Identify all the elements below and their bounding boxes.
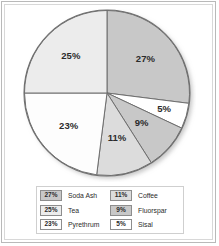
legend-column-left: 27%Soda Ash25%Tea23%Pyrethrum [40, 189, 110, 231]
pie-slice-label: 11% [108, 132, 127, 143]
pie-slices [25, 11, 190, 176]
legend-column-right: 11%Coffee9%Fluorspar5%Sisal [110, 189, 180, 231]
legend-item: 23%Pyrethrum [40, 218, 110, 231]
legend-swatch: 5% [110, 219, 132, 230]
legend-swatch: 25% [40, 205, 62, 216]
legend-item: 27%Soda Ash [40, 189, 110, 202]
legend-swatch: 23% [40, 219, 62, 230]
legend-item: 9%Fluorspar [110, 204, 180, 217]
legend: 27%Soda Ash25%Tea23%Pyrethrum 11%Coffee9… [36, 186, 184, 234]
pie-slice-label: 5% [157, 103, 171, 114]
legend-item: 25%Tea [40, 204, 110, 217]
legend-label: Coffee [138, 192, 158, 199]
legend-swatch: 9% [110, 205, 132, 216]
pie-slice [25, 93, 108, 175]
pie-chart-figure: 27%5%9%11%23%25% 27%Soda Ash25%Tea23%Pyr… [0, 0, 219, 246]
legend-item: 5%Sisal [110, 218, 180, 231]
pie-slice-label: 23% [59, 120, 79, 131]
legend-item: 11%Coffee [110, 189, 180, 202]
pie-slice-label: 9% [135, 117, 149, 128]
legend-label: Soda Ash [68, 192, 97, 199]
pie-chart: 27%5%9%11%23%25% [23, 9, 196, 182]
legend-label: Sisal [138, 221, 153, 228]
legend-label: Pyrethrum [68, 221, 99, 228]
legend-label: Tea [68, 207, 79, 214]
pie-slice-label: 27% [136, 53, 156, 64]
legend-label: Fluorspar [138, 207, 167, 214]
legend-swatch: 27% [40, 190, 62, 201]
legend-swatch: 11% [110, 190, 132, 201]
pie-slice-label: 25% [61, 50, 81, 61]
pie-chart-svg: 27%5%9%11%23%25% [23, 9, 196, 182]
